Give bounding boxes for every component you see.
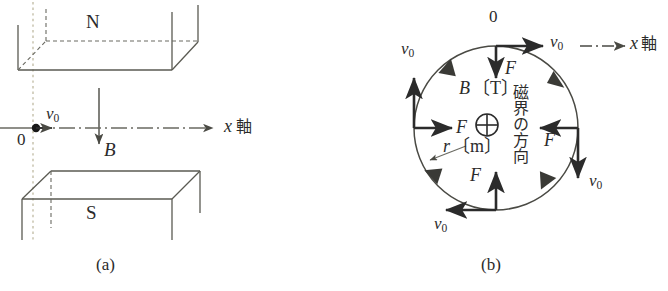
field-into-page-icon (476, 114, 498, 136)
velocity-subscript-b-left: 0 (409, 47, 415, 60)
force-label-top: F (505, 59, 516, 77)
figure-canvas: N S 0 v0 B x軸 (a) 0 v0 x軸 F v0 B〔T〕 F F … (0, 0, 668, 291)
x-axis-label-a: x軸 (224, 117, 252, 135)
force-label-bottom: F (470, 166, 481, 184)
velocity-symbol-b-top: v (550, 32, 558, 51)
velocity-label-b-left: v0 (401, 40, 414, 59)
velocity-subscript-a: 0 (54, 112, 60, 125)
caption-b: (b) (481, 256, 501, 273)
velocity-symbol-b-bottom: v (434, 214, 442, 233)
caption-a: (a) (96, 256, 115, 273)
velocity-subscript-b-right: 0 (597, 179, 603, 192)
velocity-subscript-b-bottom: 0 (442, 222, 448, 235)
velocity-label-b-top: v0 (550, 33, 563, 52)
north-pole-label: N (86, 12, 100, 31)
radius-unit-b: 〔m〕 (452, 136, 502, 156)
x-axis-text-a: 軸 (236, 117, 252, 136)
radius-label-b: r〔m〕 (443, 137, 502, 155)
velocity-label-a: v0 (46, 105, 59, 124)
b-field-symbol-b: B (459, 78, 470, 98)
x-axis-text-b: 軸 (641, 34, 657, 53)
velocity-symbol-b-right: v (589, 171, 597, 190)
velocity-subscript-b-top: 0 (558, 40, 564, 53)
velocity-label-b-bottom: v0 (434, 215, 447, 234)
origin-label-a: 0 (17, 131, 26, 148)
force-label-left: F (456, 118, 467, 136)
radius-symbol-b: r (443, 136, 450, 156)
velocity-symbol-a: v (46, 104, 54, 123)
x-axis-symbol-b: x (630, 33, 638, 53)
x-axis-symbol-a: x (224, 116, 232, 136)
south-pole-label: S (86, 203, 97, 222)
south-pole-slab (22, 171, 200, 240)
b-field-label-a: B (104, 140, 116, 159)
north-pole-slab (18, 5, 198, 70)
x-axis-label-b: x軸 (630, 34, 657, 52)
figure-vector-layer (0, 0, 668, 291)
panel-a-graphics (0, 2, 213, 240)
force-label-right: F (544, 131, 555, 149)
velocity-symbol-b-left: v (401, 39, 409, 58)
field-direction-label: 磁界の方向 (511, 84, 527, 184)
origin-label-b: 0 (489, 8, 498, 25)
velocity-label-b-right: v0 (589, 172, 602, 191)
